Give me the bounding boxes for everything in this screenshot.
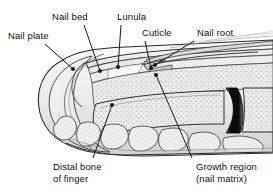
fingertip-anatomy-figure: Nail plateNail bedLunulaCuticleNail root… — [0, 0, 273, 195]
label-line: Cuticle — [142, 27, 172, 39]
label-distal-bone-of-finger: Distal boneof finger — [53, 161, 102, 184]
leader-dot-distal-bone-of-finger — [110, 103, 114, 107]
leader-dot-nail-plate — [71, 67, 75, 71]
label-line: Nail root — [197, 27, 233, 39]
label-growth-region-nail-matrix: Growth region(nail matrix) — [196, 161, 257, 184]
label-line: Growth region — [196, 161, 257, 173]
label-line: Nail bed — [52, 11, 88, 23]
leader-dot-nail-root — [153, 63, 157, 67]
label-nail-bed: Nail bed — [52, 11, 88, 23]
leader-dot-cuticle — [149, 66, 153, 70]
label-nail-plate: Nail plate — [8, 30, 49, 42]
label-line: Distal bone — [53, 161, 102, 173]
middle-phalanx-bone — [242, 88, 273, 132]
label-line: of finger — [53, 173, 102, 185]
label-line: Nail plate — [8, 30, 49, 42]
finger-cross-section — [38, 31, 273, 156]
label-line: Lunula — [117, 11, 146, 23]
label-nail-root: Nail root — [197, 27, 233, 39]
leader-dot-nail-bed — [98, 69, 102, 73]
label-line: (nail matrix) — [196, 173, 257, 185]
leader-dot-growth-region-nail-matrix — [154, 73, 158, 77]
leader-dot-lunula — [116, 65, 120, 69]
label-cuticle: Cuticle — [142, 27, 172, 39]
label-lunula: Lunula — [117, 11, 146, 23]
